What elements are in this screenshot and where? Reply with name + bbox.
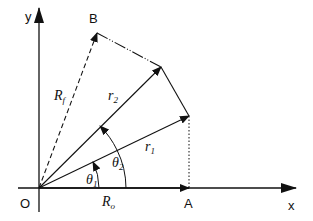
- vector-diagram: y x O A B Rf r2 r1 Ro θ1 θ2: [0, 0, 313, 221]
- vector-r1-label: r1: [145, 139, 155, 156]
- vector-r2: [39, 67, 161, 188]
- angle-theta2-label: θ2: [112, 155, 124, 172]
- vector-Ro-label: Ro: [101, 194, 116, 211]
- point-B-label: B: [89, 11, 98, 26]
- x-axis-label: x: [288, 198, 295, 213]
- vector-Rf-label: Rf: [53, 88, 67, 105]
- point-A-label: A: [184, 196, 193, 211]
- link-P2-P1: [161, 67, 189, 116]
- y-axis-label: y: [25, 9, 32, 24]
- origin-label: O: [20, 196, 30, 211]
- angle-theta1-label: θ1: [86, 172, 97, 189]
- link-B-P2: [97, 33, 161, 67]
- vector-r2-label: r2: [108, 88, 118, 105]
